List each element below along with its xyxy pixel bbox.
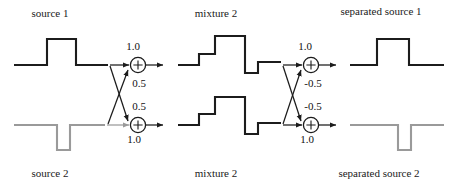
- unmix-line-top-to-bottom-cross: [283, 66, 301, 121]
- gain-mix-bottom-cross: 0.5: [132, 100, 146, 112]
- waveform-source-1: [14, 39, 108, 65]
- label-source-1: source 1: [32, 7, 69, 19]
- waveform-separated-source-1: [350, 39, 444, 65]
- unmix-line-bottom-to-top-cross: [283, 70, 301, 124]
- label-source-2: source 2: [32, 167, 69, 179]
- gain-mix-top-direct: 1.0: [126, 40, 140, 52]
- gain-unmix-top-direct: 1.0: [298, 40, 312, 52]
- figure-canvas: source 1 source 2 mixture 2 mixture 2 se…: [0, 0, 454, 183]
- gain-unmix-bottom-direct: 1.0: [300, 133, 314, 145]
- label-mixture-top: mixture 2: [195, 7, 237, 19]
- label-separated-source-2: separated source 2: [338, 167, 419, 179]
- mix-line-bottom-to-top-cross: [108, 70, 128, 124]
- gain-mix-top-cross: 0.5: [132, 77, 146, 89]
- gain-unmix-top-cross: -0.5: [304, 77, 322, 89]
- label-mixture-bottom: mixture 2: [195, 167, 237, 179]
- label-separated-source-1: separated source 1: [340, 5, 421, 17]
- signal-flow-diagram: source 1 source 2 mixture 2 mixture 2 se…: [0, 0, 454, 183]
- gain-mix-bottom-direct: 1.0: [127, 133, 141, 145]
- waveform-mixture-top: [178, 36, 281, 73]
- gain-unmix-bottom-cross: -0.5: [304, 100, 322, 112]
- waveform-source-2: [14, 125, 105, 150]
- waveform-mixture-bottom: [178, 97, 281, 134]
- waveform-separated-source-2: [350, 125, 444, 150]
